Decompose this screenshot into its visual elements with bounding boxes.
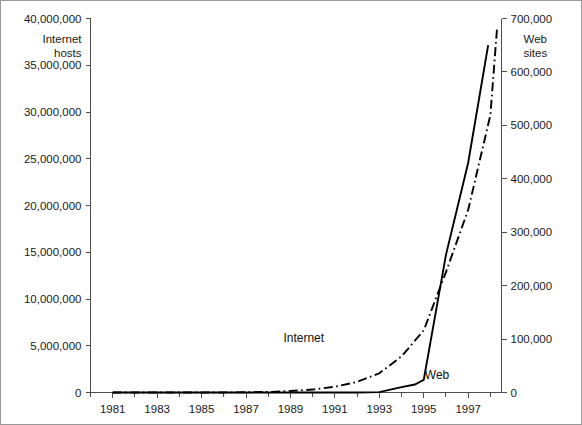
- y-axis-right-tick-label: 600,000: [511, 66, 553, 78]
- y-axis-right-title-line1: Web: [524, 33, 547, 45]
- y-axis-right-tick-label: 0: [511, 387, 517, 399]
- y-axis-left-tick-label: 30,000,000: [24, 106, 82, 118]
- y-axis-left-tick-label: 5,000,000: [30, 340, 81, 352]
- series-label-internet: Internet: [283, 331, 324, 345]
- y-axis-left-tick-label: 15,000,000: [24, 246, 82, 258]
- x-axis-tick-label: 1993: [367, 403, 393, 415]
- axis-titles-layer: InternethostsWebsites: [43, 33, 548, 59]
- x-axis-tick-label: 1995: [411, 403, 437, 415]
- y-axis-left-tick-label: 25,000,000: [24, 153, 82, 165]
- y-axis-right-tick-label: 100,000: [511, 333, 553, 345]
- x-axis-tick-label: 1985: [189, 403, 215, 415]
- y-axis-right-tick-label: 500,000: [511, 119, 553, 131]
- y-axis-left-tick-label: 20,000,000: [24, 200, 82, 212]
- y-axis-left-tick-label: 40,000,000: [24, 13, 82, 25]
- y-axis-right-tick-label: 700,000: [511, 13, 553, 25]
- y-axis-right-tick-label: 200,000: [511, 280, 553, 292]
- tick-labels-layer: 05,000,00010,000,00015,000,00020,000,000…: [24, 13, 552, 415]
- y-axis-left-title-line1: Internet: [43, 33, 83, 45]
- x-axis-tick-label: 1989: [278, 403, 304, 415]
- x-axis-tick-label: 1987: [233, 403, 259, 415]
- y-axis-left-tick-label: 35,000,000: [24, 59, 82, 71]
- y-axis-right-title-line2: sites: [524, 47, 548, 59]
- y-axis-left-title-line2: hosts: [54, 47, 82, 59]
- x-axis-tick-label: 1991: [322, 403, 348, 415]
- x-axis-tick-label: 1997: [455, 403, 481, 415]
- y-axis-left-tick-label: 0: [75, 387, 81, 399]
- y-axis-right-tick-label: 300,000: [511, 226, 553, 238]
- chart-figure: 05,000,00010,000,00015,000,00020,000,000…: [0, 0, 582, 425]
- x-axis-tick-label: 1981: [100, 403, 126, 415]
- y-axis-left-tick-label: 10,000,000: [24, 293, 82, 305]
- x-axis-tick-label: 1983: [144, 403, 170, 415]
- line-chart: 05,000,00010,000,00015,000,00020,000,000…: [1, 1, 582, 425]
- series-label-web: Web: [425, 368, 450, 382]
- y-axis-right-tick-label: 400,000: [511, 173, 553, 185]
- series-annotations-layer: InternetWeb: [283, 331, 449, 382]
